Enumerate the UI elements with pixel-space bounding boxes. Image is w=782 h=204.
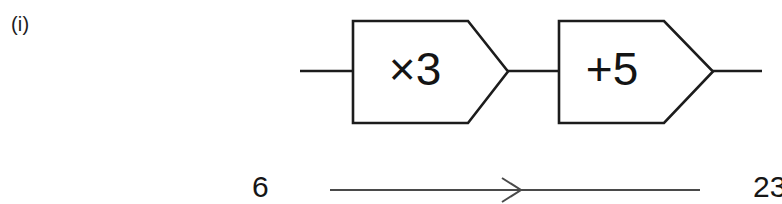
function-machine-diagram: ×3 +5 6 23 — [0, 0, 782, 204]
input-value: 6 — [252, 170, 269, 203]
function-machine-question: (i) ×3 +5 6 23 — [0, 0, 782, 204]
machine-label-multiply: ×3 — [389, 43, 441, 95]
machine-label-add: +5 — [586, 43, 638, 95]
output-value: 23 — [753, 170, 782, 203]
